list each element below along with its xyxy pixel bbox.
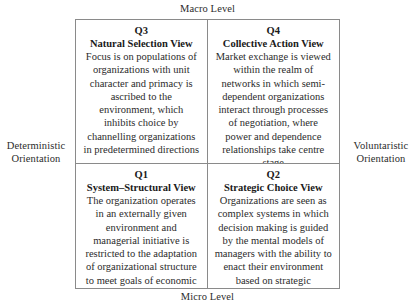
quadrant-title-q4: Collective Action View	[215, 37, 333, 50]
quadrant-cell-q1: Q1 System–Structural View The organizati…	[76, 164, 208, 288]
quadrant-matrix-figure: Macro Level Deterministic Orientation Vo…	[0, 0, 418, 308]
quadrant-title-q1: System–Structural View	[83, 181, 200, 194]
quadrant-body-q2: Organizations are seen as complex system…	[215, 194, 333, 288]
quadrant-body-q4: Market exchange is viewed within the rea…	[215, 50, 333, 164]
quadrant-body-q1: The organization operates in an external…	[83, 194, 200, 288]
quadrant-id-q1: Q1	[83, 168, 200, 181]
quadrant-title-q3: Natural Selection View	[83, 37, 200, 50]
axis-label-right: Voluntaristic Orientation	[344, 140, 418, 165]
axis-label-bottom: Micro Level	[75, 291, 340, 304]
matrix-grid: Q3 Natural Selection View Focus is on po…	[75, 19, 340, 289]
quadrant-title-q2: Strategic Choice View	[215, 181, 333, 194]
quadrant-cell-q4: Q4 Collective Action View Market exchang…	[208, 20, 340, 164]
quadrant-cell-q2: Q2 Strategic Choice View Organizations a…	[208, 164, 340, 288]
axis-label-left: Deterministic Orientation	[0, 140, 72, 165]
quadrant-id-q4: Q4	[215, 24, 333, 37]
quadrant-cell-q3: Q3 Natural Selection View Focus is on po…	[76, 20, 208, 164]
quadrant-id-q3: Q3	[83, 24, 200, 37]
quadrant-id-q2: Q2	[215, 168, 333, 181]
quadrant-body-q3: Focus is on populations of organizations…	[83, 50, 200, 156]
axis-label-top: Macro Level	[75, 3, 340, 16]
